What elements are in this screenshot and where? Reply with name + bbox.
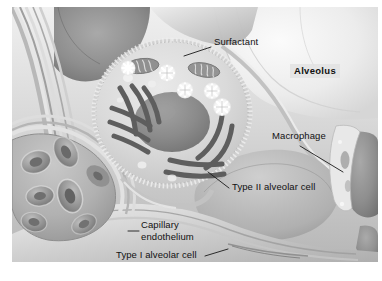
label-macrophage: Macrophage	[272, 130, 326, 141]
label-type-i-alveolar-cell: Type I alveolar cell	[116, 249, 197, 260]
label-capillary-endothelium: Capillary endothelium	[141, 219, 194, 242]
label-alveolus: Alveolus	[290, 64, 340, 78]
type-ii-alveolar-cell-body	[92, 39, 252, 187]
label-type-ii-alveolar-cell: Type II alveolar cell	[232, 181, 315, 192]
label-surfactant: Surfactant	[214, 36, 258, 47]
figure-root: Surfactant Alveolus Macrophage Type II a…	[0, 0, 382, 281]
